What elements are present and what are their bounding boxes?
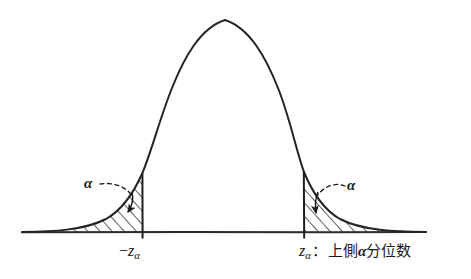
normal-curve — [22, 20, 426, 232]
description-upper-side: 上側 — [328, 242, 358, 260]
shaded-region-upper-tail — [304, 172, 426, 232]
tick-label-minus-z-alpha: −zα — [119, 243, 140, 261]
normal-distribution-figure: α α −zα zα：上側α分位数 — [0, 0, 471, 279]
tick-label-z-alpha-description: zα：上側α分位数 — [299, 243, 411, 261]
minus-sign: − — [119, 242, 128, 259]
alpha-subscript: α — [134, 249, 140, 261]
alpha-label-right: α — [347, 178, 355, 193]
colon-separator: ： — [311, 242, 328, 260]
figure-canvas — [0, 0, 471, 279]
description-quantile: 分位数 — [366, 242, 411, 260]
alpha-label-left: α — [84, 176, 92, 191]
